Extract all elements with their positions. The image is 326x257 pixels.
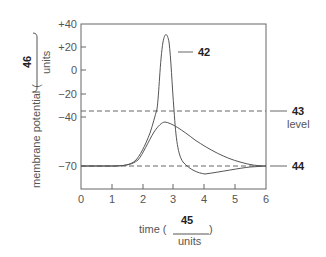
x-tick-label: 0 bbox=[78, 193, 84, 205]
x-axis-title: time ( bbox=[139, 223, 167, 235]
y-blank-number-group: 46 bbox=[21, 56, 33, 68]
x-units-label: units bbox=[178, 235, 202, 247]
y-tick-label: 0 bbox=[71, 64, 77, 76]
y-units-group: units bbox=[40, 50, 52, 74]
action-potential-chart: +40 +20 0 −20 −40 −70 0 1 2 3 4 5 6 42 4… bbox=[0, 0, 326, 257]
y-tick-labels: +40 +20 0 −20 −40 −70 bbox=[58, 18, 77, 172]
x-tick-label: 5 bbox=[232, 193, 238, 205]
y-tick-label: +20 bbox=[58, 41, 77, 53]
y-axis-title: membrane potential ( bbox=[30, 84, 42, 188]
x-axis-ticks bbox=[112, 184, 235, 189]
action-potential-curve bbox=[81, 35, 266, 175]
y-blank-number: 46 bbox=[21, 56, 33, 68]
resting-label: 44 bbox=[292, 160, 305, 172]
y-axis-title-group: membrane potential ( bbox=[30, 84, 42, 188]
x-tick-label: 3 bbox=[170, 193, 176, 205]
x-axis-close: ) bbox=[209, 223, 213, 235]
threshold-sublabel: level bbox=[287, 118, 310, 130]
y-axis-blank-bracket bbox=[33, 33, 37, 92]
peak-label: 42 bbox=[198, 46, 210, 58]
x-tick-label: 6 bbox=[263, 193, 269, 205]
y-tick-label: −70 bbox=[58, 160, 77, 172]
x-tick-label: 4 bbox=[201, 193, 207, 205]
subthreshold-curve bbox=[81, 122, 266, 166]
y-tick-label: +40 bbox=[58, 18, 77, 30]
x-tick-label: 2 bbox=[140, 193, 146, 205]
x-blank-number: 45 bbox=[181, 214, 193, 226]
y-axis-ticks bbox=[81, 47, 86, 117]
threshold-label: 43 bbox=[292, 105, 304, 117]
y-tick-label: −40 bbox=[58, 111, 77, 123]
x-tick-labels: 0 1 2 3 4 5 6 bbox=[78, 193, 269, 205]
y-units-label: units bbox=[40, 50, 52, 74]
x-tick-label: 1 bbox=[109, 193, 115, 205]
y-tick-label: −20 bbox=[58, 88, 77, 100]
